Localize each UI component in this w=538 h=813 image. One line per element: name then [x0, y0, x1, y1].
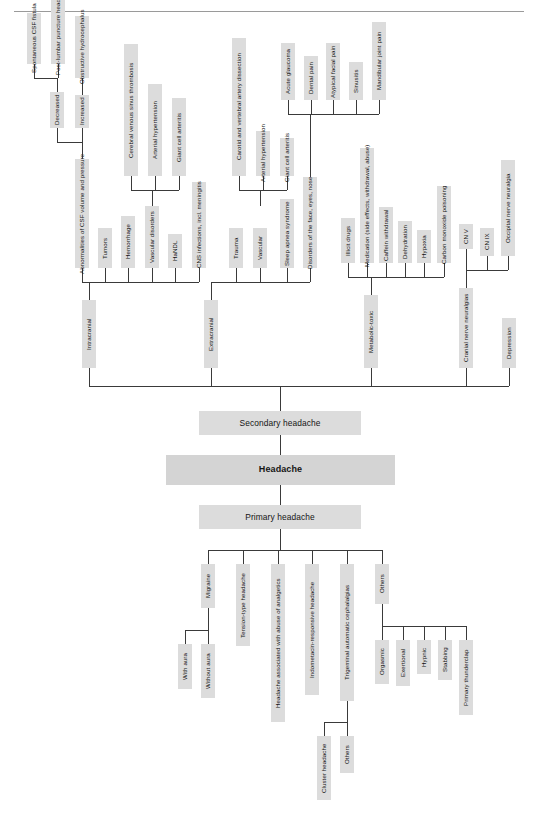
node-indometacin-responsive-headache[interactable]: Indometacin-responsive headache: [305, 564, 319, 695]
stem-without-aura: [208, 630, 209, 644]
stem-carbon-monoxide: [444, 263, 445, 277]
node-decreased[interactable]: Decreased: [50, 92, 64, 128]
node-giant-cell-arteritis-intracranial[interactable]: Giant cell arteritis: [172, 98, 186, 176]
stem-tac-down: [347, 701, 348, 722]
node-dehydration[interactable]: Dehydration: [398, 221, 412, 263]
stem-with-aura: [185, 630, 186, 644]
node-tension-type-headache[interactable]: Tension-type headache: [236, 564, 250, 646]
stem-occipital-neuralgia: [508, 256, 509, 270]
node-acute-glaucoma[interactable]: Acute glaucoma: [281, 43, 295, 100]
stem-atypical-facial-pain: [333, 100, 334, 114]
stem-tension-type: [243, 550, 244, 564]
bus-primary-children: [208, 550, 382, 551]
stem-carotid-dissection: [239, 176, 240, 190]
stem-cns-infections: [199, 268, 200, 282]
node-occipital-nerve-neuralgia[interactable]: Occipital nerve neuralgia: [501, 160, 515, 256]
stem-acute-glaucoma: [288, 100, 289, 114]
node-hypnic[interactable]: Hypnic: [417, 640, 431, 674]
node-hypoxia[interactable]: Hypoxia: [417, 230, 431, 263]
node-stabbing[interactable]: Stabbing: [438, 640, 452, 680]
node-trauma[interactable]: Trauma: [229, 228, 243, 268]
stem-sleep-apnea: [287, 268, 288, 282]
node-metabolic-toxic[interactable]: Metabolic-toxic: [364, 295, 378, 368]
stem-others-primary: [382, 550, 383, 564]
node-handl[interactable]: HaNDL: [168, 234, 182, 268]
node-headache-root[interactable]: Headache: [166, 455, 395, 485]
node-vascular-disorders[interactable]: Vascular disorders: [145, 206, 159, 268]
node-carotid-vertebral-artery-dissection[interactable]: Carotid and vertebral artery dissection: [232, 38, 246, 176]
bus-cnn-children: [466, 270, 508, 271]
stem-increased: [82, 128, 83, 142]
node-arterial-hypertension-intracranial[interactable]: Arterial hypertension: [148, 84, 162, 176]
node-giant-cell-arteritis-extracranial[interactable]: Giant cell arteritis: [280, 138, 294, 176]
node-migraine[interactable]: Migraine: [201, 564, 215, 608]
node-secondary-headache[interactable]: Secondary headache: [199, 411, 361, 435]
node-hemorrhage[interactable]: Hemorrhage: [121, 216, 135, 268]
stem-metabolic-up: [371, 277, 372, 295]
stem-hypoxia: [424, 263, 425, 277]
node-carbon-monoxide-poisoning[interactable]: Carbon monoxide poisoning: [437, 186, 451, 263]
node-csf-abnormalities[interactable]: Abnormalities of CSF volume and pressure: [75, 159, 89, 268]
node-cns-infections[interactable]: CNS infections, incl. meningitis: [192, 182, 206, 268]
stem-exertional: [403, 626, 404, 640]
stem-dehydration: [405, 263, 406, 277]
stem-illicit-drugs: [348, 263, 349, 277]
stem-extracranial: [211, 368, 212, 386]
node-without-aura[interactable]: Without aura: [201, 644, 215, 698]
node-extracranial[interactable]: Extracranial: [204, 300, 218, 368]
stem-cluster-headache: [324, 722, 325, 736]
node-trigeminal-automatic-cephalalgias[interactable]: Trigeminal automatic cephalalgias: [340, 564, 354, 701]
stem-analgetics-abuse: [278, 550, 279, 564]
node-cranial-nerve-neuralgias[interactable]: Cranial nerve neuralgias: [459, 288, 473, 368]
stem-caffein-withdrawal: [386, 263, 387, 277]
stem-cnn-up: [466, 270, 467, 288]
node-medication[interactable]: Medication (side effects, withdrawal, ab…: [360, 148, 374, 263]
node-with-aura[interactable]: With aura: [178, 644, 192, 689]
node-others-tac[interactable]: Others: [340, 736, 354, 773]
node-sleep-apnea-syndrome[interactable]: Sleep apnea syndrome: [280, 199, 294, 268]
node-headache-abuse-analgetics[interactable]: Headache associated with abuse of analge…: [271, 564, 285, 722]
stem-vascular-disorders: [152, 268, 153, 282]
stem-extracranial-up: [211, 282, 212, 300]
node-mandibular-joint-pain[interactable]: Mandibular joint pain: [372, 22, 386, 100]
node-arterial-hypertension-extracranial[interactable]: Arterial hypertension: [256, 131, 270, 176]
stem-hemorrhage: [128, 268, 129, 282]
node-atypical-facial-pain[interactable]: Atypical facial pain: [326, 43, 340, 100]
stem-others-tac: [347, 722, 348, 736]
node-exertional[interactable]: Exertional: [396, 640, 410, 686]
node-vascular-extracranial[interactable]: Vascular: [253, 228, 267, 268]
stem-vascular-disorders-up: [152, 190, 153, 206]
stem-arterial-hypertension-intra: [155, 176, 156, 190]
top-rule-divider: [14, 11, 524, 12]
stem-intracranial-up: [89, 282, 90, 300]
node-cn-ix[interactable]: CN IX: [480, 228, 494, 256]
node-cluster-headache[interactable]: Cluster headache: [317, 736, 331, 800]
node-cn-v[interactable]: CN V: [459, 224, 473, 249]
stem-vascular-extra-up: [260, 190, 261, 206]
node-illicit-drugs[interactable]: Illicit drugs: [341, 218, 355, 263]
node-obstructive-hydrocephalus[interactable]: Obstructive hydrocephalus: [75, 16, 89, 78]
node-dental-pain[interactable]: Dental pain: [304, 56, 318, 100]
node-sinusitis[interactable]: Sinusitis: [349, 62, 363, 100]
node-primary-headache[interactable]: Primary headache: [199, 505, 361, 529]
stem-vascular-extra: [260, 268, 261, 282]
node-cerebral-venous-sinus-thrombosis[interactable]: Cerebral venous sinus thrombosis: [124, 44, 138, 176]
node-post-lumbar-puncture-headache[interactable]: Post-lumbar puncture headache: [51, 0, 65, 64]
stem-cranial-nerve-neuralgias: [466, 368, 467, 386]
stem-cn-v: [466, 249, 467, 270]
node-tumors[interactable]: Tumors: [98, 228, 112, 268]
node-others-primary[interactable]: Others: [375, 564, 389, 604]
node-primary-thunderclap[interactable]: Primary thunderclap: [459, 640, 473, 715]
node-face-eyes-nose-disorders[interactable]: Disorders of the face, eyes, nose: [303, 177, 317, 268]
stem-tac: [347, 550, 348, 564]
bus-face-children: [288, 114, 379, 115]
node-orgasmic[interactable]: Orgasmic: [375, 640, 389, 684]
node-increased[interactable]: Increased: [75, 95, 89, 128]
bus-tac-children: [324, 722, 348, 723]
node-spontaneous-csf-fistula[interactable]: Spontaneous CSF fistula: [27, 13, 41, 64]
node-depression[interactable]: Depression: [502, 318, 516, 368]
bus-csf-children: [57, 142, 83, 143]
node-caffein-withdrawal[interactable]: Caffein withdrawal: [379, 207, 393, 263]
stem-intracranial: [89, 368, 90, 386]
node-intracranial[interactable]: Intracranial: [82, 300, 96, 368]
